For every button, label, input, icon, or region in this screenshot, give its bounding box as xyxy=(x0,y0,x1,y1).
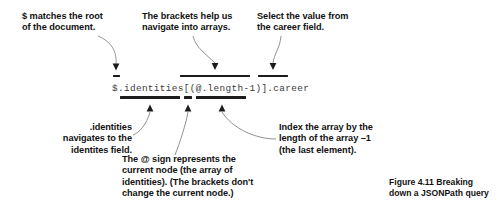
callout-brackets: The brackets help us navigate into array… xyxy=(142,11,257,34)
underline-career-field xyxy=(258,75,288,78)
callout-index: Index the array by the length of the arr… xyxy=(279,122,419,156)
arrowhead-brackets-down xyxy=(212,63,219,70)
arrowhead-identities-up xyxy=(147,105,154,112)
leader-line-at-sign xyxy=(175,112,188,155)
leader-line-career xyxy=(273,36,281,63)
underline-root-dollar xyxy=(113,75,120,77)
underline-length-expression xyxy=(196,96,246,99)
callout-at-sign: The @ sign represents the current node (… xyxy=(122,154,287,200)
callout-root: $ matches the root of the document. xyxy=(22,11,142,34)
leader-line-index xyxy=(222,112,276,139)
arrowhead-root-down xyxy=(113,64,120,71)
leader-line-root xyxy=(98,36,116,64)
jsonpath-breakdown-figure: $ matches the root of the document. The … xyxy=(0,0,497,221)
arrowhead-index-up xyxy=(219,105,226,112)
underline-brackets-expression xyxy=(180,75,250,78)
arrowhead-at-up xyxy=(185,105,192,112)
callout-career: Select the value from the career field. xyxy=(257,11,382,34)
underline-at-sign xyxy=(184,96,192,99)
leader-line-identities xyxy=(133,112,150,135)
leader-line-brackets xyxy=(193,36,215,63)
arrowhead-career-down xyxy=(270,63,277,70)
callout-identities: .identities navigates to the identites f… xyxy=(10,122,132,156)
underline-identities-segment xyxy=(120,96,180,99)
jsonpath-query-text: $.identities[(@.length-1)].career xyxy=(112,83,309,94)
figure-caption: Figure 4.11 Breaking down a JSONPath que… xyxy=(389,177,494,199)
